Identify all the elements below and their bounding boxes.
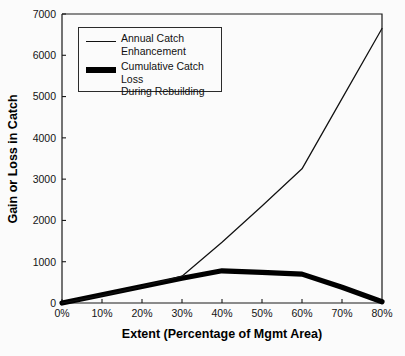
y-tick-label: 5000: [33, 90, 57, 102]
x-tick-label: 40%: [211, 307, 232, 319]
y-axis-tick-labels: 01000200030004000500060007000: [33, 8, 57, 309]
x-tick-label: 0%: [54, 307, 69, 319]
x-axis-title: Extent (Percentage of Mgmt Area): [122, 327, 322, 341]
chart-legend: Annual Catch Enhancement Cumulative Catc…: [78, 27, 222, 92]
y-tick-label: 2000: [33, 214, 57, 226]
legend-entry-label: Annual Catch Enhancement: [121, 32, 221, 57]
thick-line-swatch: [86, 66, 116, 74]
legend-entry-label: Cumulative Catch Loss During Rebuilding: [121, 60, 221, 98]
x-tick-label: 20%: [131, 307, 152, 319]
thin-line-swatch: [86, 38, 116, 46]
y-tick-label: 1000: [33, 256, 57, 268]
chart-figure: 01000200030004000500060007000 0%10%20%30…: [0, 0, 405, 356]
x-tick-label: 30%: [171, 307, 192, 319]
y-tick-label: 6000: [33, 49, 57, 61]
y-tick-label: 3000: [33, 173, 57, 185]
x-axis-tick-labels: 0%10%20%30%40%50%60%70%80%: [54, 307, 392, 319]
series-cumulative-catch-loss: [62, 271, 382, 303]
y-tick-label: 7000: [33, 8, 57, 20]
x-tick-label: 70%: [331, 307, 352, 319]
x-tick-label: 10%: [91, 307, 112, 319]
y-tick-label: 4000: [33, 132, 57, 144]
y-axis-title: Gain or Loss in Catch: [6, 94, 20, 223]
x-tick-label: 60%: [291, 307, 312, 319]
x-tick-label: 50%: [251, 307, 272, 319]
x-tick-label: 80%: [371, 307, 392, 319]
